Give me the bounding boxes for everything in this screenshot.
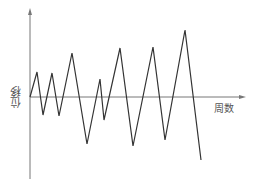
- y-axis-arrow-icon: [28, 8, 32, 15]
- x-axis-arrow-icon: [239, 95, 246, 99]
- y-axis-label: 位移: [12, 86, 26, 108]
- displacement-curve: [30, 30, 201, 160]
- x-axis-label: 周数: [214, 100, 234, 115]
- diagram-svg: [0, 0, 261, 190]
- displacement-cycle-diagram: 位移 周数: [0, 0, 261, 190]
